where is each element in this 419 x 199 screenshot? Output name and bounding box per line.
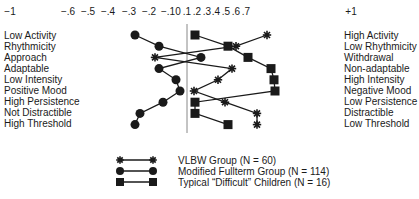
legend-item-fullterm: Modified Fullterm Group (N = 114) xyxy=(178,166,329,177)
series-layer xyxy=(131,31,280,130)
legend-square-icon xyxy=(116,178,124,186)
square-marker xyxy=(224,42,233,51)
star-marker xyxy=(214,76,222,84)
square-marker xyxy=(267,64,276,73)
circle-marker xyxy=(197,53,206,62)
legend-star-icon xyxy=(116,156,124,164)
legend-item-difficult: Typical “Difficult” Children (N = 16) xyxy=(178,177,330,188)
star-marker xyxy=(151,53,159,61)
star-marker xyxy=(253,120,261,128)
circle-marker xyxy=(131,31,140,40)
square-marker xyxy=(191,31,200,40)
legend-item-vlbw: VLBW Group (N = 60) xyxy=(178,155,276,166)
square-marker xyxy=(224,120,233,129)
legend-markers xyxy=(116,156,157,186)
circle-marker xyxy=(155,64,164,73)
square-marker xyxy=(270,75,279,84)
star-marker xyxy=(228,64,236,72)
circle-marker xyxy=(155,42,164,51)
circle-marker xyxy=(172,75,181,84)
star-marker xyxy=(221,98,229,106)
square-marker xyxy=(244,53,253,62)
legend-star-icon xyxy=(149,156,157,164)
circle-marker xyxy=(159,98,168,107)
circle-marker xyxy=(131,120,140,129)
series-star xyxy=(151,31,271,129)
legend-circle-icon xyxy=(149,167,157,175)
star-marker xyxy=(190,87,198,95)
star-marker xyxy=(253,109,261,117)
legend-square-icon xyxy=(149,178,157,186)
circle-marker xyxy=(136,109,145,118)
square-marker xyxy=(191,98,200,107)
circle-marker xyxy=(176,87,185,96)
square-marker xyxy=(191,109,200,118)
star-marker xyxy=(263,31,271,39)
legend-circle-icon xyxy=(116,167,124,175)
square-marker xyxy=(271,87,280,96)
